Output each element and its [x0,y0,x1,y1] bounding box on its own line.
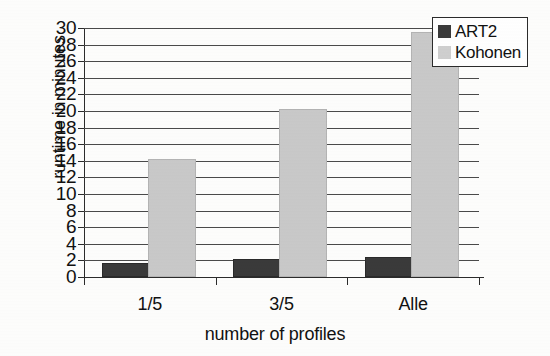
bar-kohonen-3-5 [279,109,327,277]
chart-legend: ART2 Kohonen [432,17,528,67]
gridline [84,277,484,278]
legend-swatch-art2-icon [438,25,451,38]
x-axis-category-label: Alle [363,295,463,313]
x-axis-tick [84,277,85,285]
legend-label-kohonen: Kohonen [455,44,521,61]
x-axis-title: number of profiles [0,325,550,343]
bar-art2-Alle [365,257,413,277]
x-axis-category-label: 3/5 [232,295,332,313]
plot-area [84,28,479,277]
legend-swatch-kohonen-icon [438,46,451,59]
y-axis-tick-label: 30 [30,18,76,37]
x-axis-tick [216,277,217,285]
bar-group [84,28,216,277]
x-axis-tick-end [479,277,480,285]
x-axis-tick [347,277,348,285]
bar-kohonen-1-5 [148,159,196,277]
bar-art2-3-5 [233,259,281,277]
bar-kohonen-Alle [411,32,459,277]
bar-group [216,28,348,277]
legend-item-art2: ART2 [438,21,523,41]
bar-chart: runtime in minutes 024681012141618202224… [0,0,550,356]
legend-label-art2: ART2 [455,23,497,40]
bar-art2-1-5 [102,263,150,277]
x-axis-category-label: 1/5 [100,295,200,313]
legend-item-kohonen: Kohonen [438,42,523,62]
